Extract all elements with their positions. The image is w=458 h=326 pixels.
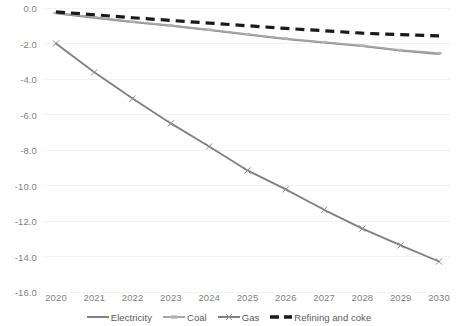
legend-swatch-icon — [218, 312, 240, 322]
series-layer — [53, 12, 442, 265]
x-tick-label: 2027 — [313, 292, 335, 303]
y-tick-label: -12.0 — [15, 216, 37, 227]
y-tick-label: -10.0 — [15, 180, 37, 191]
series-line-refining-and-coke — [56, 12, 439, 36]
x-tick-label: 2020 — [45, 292, 67, 303]
data-point-marker — [321, 207, 327, 213]
x-tick-label: 2021 — [84, 292, 106, 303]
x-tick-label: 2026 — [275, 292, 297, 303]
x-axis: 2020202120222023202420252026202720282029… — [45, 292, 450, 308]
line-chart: 0.0-2.0-4.0-6.0-8.0-10.0-12.0-14.0-16.0 … — [0, 0, 458, 326]
x-tick-label: 2022 — [122, 292, 144, 303]
legend-label: Electricity — [111, 312, 152, 323]
legend-swatch-icon — [87, 312, 109, 322]
y-tick-label: -8.0 — [20, 145, 37, 156]
legend-label: Refining and coke — [294, 312, 371, 323]
y-tick-label: -6.0 — [20, 109, 37, 120]
x-tick-label: 2029 — [390, 292, 412, 303]
y-tick-label: 0.0 — [23, 3, 37, 14]
data-point-marker — [206, 143, 212, 149]
y-tick-label: -2.0 — [20, 38, 37, 49]
plot-svg — [45, 8, 450, 292]
y-tick-label: -16.0 — [15, 287, 37, 298]
x-tick-label: 2028 — [352, 292, 374, 303]
x-tick-label: 2025 — [237, 292, 259, 303]
gridlines — [45, 8, 450, 292]
data-point-marker — [283, 186, 289, 192]
legend-label: Coal — [187, 312, 207, 323]
legend-item-refining-and-coke[interactable]: Refining and coke — [270, 312, 371, 323]
data-point-marker — [130, 95, 136, 101]
y-axis: 0.0-2.0-4.0-6.0-8.0-10.0-12.0-14.0-16.0 — [0, 8, 41, 292]
y-tick-label: -4.0 — [20, 74, 37, 85]
legend-item-electricity[interactable]: Electricity — [87, 312, 152, 323]
legend-swatch-icon — [270, 312, 292, 322]
legend-label: Gas — [242, 312, 260, 323]
x-tick-label: 2024 — [198, 292, 220, 303]
y-tick-label: -14.0 — [15, 251, 37, 262]
data-point-marker — [91, 69, 97, 75]
x-tick-label: 2030 — [428, 292, 450, 303]
chart-legend: ElectricityCoalGasRefining and coke — [0, 309, 458, 325]
series-line-gas — [56, 44, 439, 262]
legend-item-coal[interactable]: Coal — [163, 312, 207, 323]
legend-item-gas[interactable]: Gas — [218, 312, 260, 323]
data-point-marker — [168, 120, 174, 126]
plot-area — [45, 8, 450, 292]
x-tick-label: 2023 — [160, 292, 182, 303]
legend-swatch-icon — [163, 312, 185, 322]
data-point-marker — [244, 167, 250, 173]
